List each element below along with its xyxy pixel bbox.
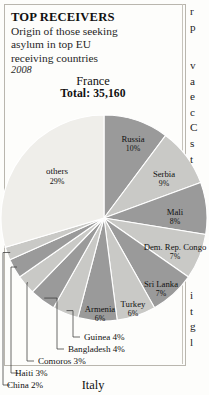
- bleed-text-line: p: [190, 20, 209, 36]
- bleed-text-line: C: [190, 120, 209, 136]
- pie-slice-label: Russia: [121, 134, 144, 144]
- adjacent-column-text-b: vaecCst: [190, 58, 209, 167]
- pie-slice-percent: 10%: [126, 144, 141, 153]
- pie-slice-percent: 8%: [170, 217, 181, 226]
- pie-slice-label: others: [46, 166, 68, 176]
- pie-callout-label: Haiti 3%: [15, 368, 48, 378]
- leader-line: [27, 283, 34, 361]
- pie-slice-label: Sri Lanka: [144, 279, 178, 289]
- adjacent-column-text-a: rp: [190, 4, 209, 35]
- pie-slice-label: Dem. Rep. Congo: [144, 242, 207, 252]
- adjacent-column-text-c: itgl: [190, 288, 209, 350]
- bleed-text-line: v: [190, 58, 209, 74]
- next-chart-title: Italy: [0, 378, 186, 393]
- infographic-panel: TOP RECEIVERS Origin of those seeking as…: [0, 0, 209, 395]
- pie-chart: Russia10%Serbia9%Mali8%Dem. Rep. Congo7%…: [0, 0, 209, 395]
- bleed-text-line: t: [190, 152, 209, 168]
- pie-slice-label: Mali: [167, 207, 184, 217]
- leader-line: [3, 253, 10, 385]
- pie-callout-label: Comoros 3%: [38, 356, 86, 366]
- bleed-text-line: r: [190, 4, 209, 20]
- bleed-text-line: g: [190, 319, 209, 335]
- pie-slice-label: Turkey: [121, 299, 146, 309]
- pie-slice-label: Armenia: [85, 304, 116, 314]
- leader-line: [11, 267, 18, 373]
- pie-slice-percent: 29%: [50, 177, 65, 186]
- bleed-text-line: a: [190, 74, 209, 90]
- pie-callout-label: Bangladesh 4%: [68, 344, 125, 354]
- bleed-text-line: s: [190, 136, 209, 152]
- pie-callout-label: Guinea 4%: [84, 332, 125, 342]
- pie-slice-percent: 9%: [159, 179, 170, 188]
- pie-slice-percent: 6%: [95, 314, 106, 323]
- bleed-text-line: t: [190, 304, 209, 320]
- pie-slice-label: Serbia: [153, 169, 175, 179]
- pie-slice-percent: 6%: [128, 309, 139, 318]
- pie-slice-percent: 7%: [170, 252, 181, 261]
- bleed-text-line: l: [190, 335, 209, 351]
- bleed-text-line: c: [190, 105, 209, 121]
- pie-slice-percent: 7%: [156, 289, 167, 298]
- bleed-text-line: i: [190, 288, 209, 304]
- pie-chart-svg: Russia10%Serbia9%Mali8%Dem. Rep. Congo7%…: [0, 0, 209, 395]
- bleed-text-line: e: [190, 89, 209, 105]
